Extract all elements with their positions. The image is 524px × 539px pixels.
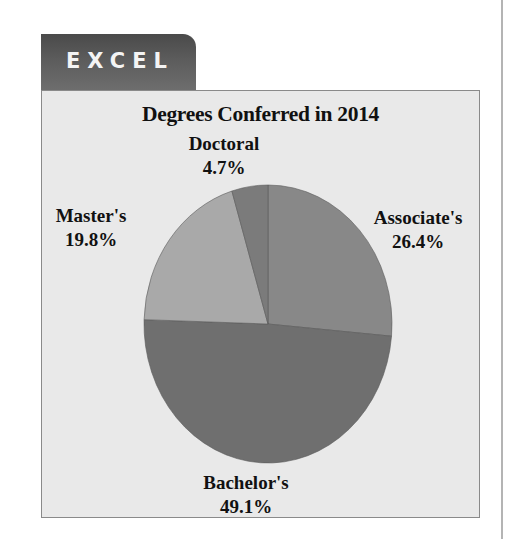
slice-bachelors: [144, 320, 392, 463]
chart-title: Degrees Conferred in 2014: [41, 101, 480, 127]
label-masters-name: Master's: [56, 205, 127, 226]
label-masters-pct: 19.8%: [45, 228, 137, 252]
label-bachelors-name: Bachelor's: [203, 472, 289, 493]
label-doctoral-name: Doctoral: [189, 133, 260, 154]
label-associates: Associate's 26.4%: [358, 206, 478, 254]
label-bachelors: Bachelor's 49.1%: [186, 471, 306, 519]
label-masters: Master's 19.8%: [45, 204, 137, 252]
label-bachelors-pct: 49.1%: [186, 495, 306, 519]
label-doctoral: Doctoral 4.7%: [180, 132, 268, 180]
label-associates-pct: 26.4%: [358, 230, 478, 254]
label-associates-name: Associate's: [374, 207, 463, 228]
pie-chart: [0, 0, 524, 539]
label-doctoral-pct: 4.7%: [180, 156, 268, 180]
